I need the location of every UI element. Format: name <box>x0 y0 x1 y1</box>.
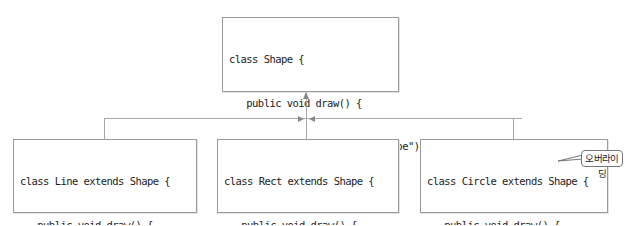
line-class-box: class Line extends Shape { public void d… <box>13 139 197 213</box>
connector-line-drop <box>104 118 105 139</box>
code-line: class Rect extends Shape { <box>224 174 414 189</box>
arrow-right-icon <box>298 116 304 122</box>
code-line: public void draw() { <box>20 218 210 226</box>
arrow-left-icon <box>309 116 315 122</box>
code-line: class Shape { <box>229 52 425 67</box>
callout-pointer-icon <box>556 153 584 165</box>
overriding-callout: 오버라이딩 <box>581 150 623 167</box>
shape-class-box: class Shape { public void draw() { Syste… <box>222 17 399 92</box>
rect-class-code: class Rect extends Shape { public void d… <box>224 145 414 225</box>
code-line: class Line extends Shape { <box>20 174 210 189</box>
line-class-code: class Line extends Shape { public void d… <box>20 145 210 225</box>
connector-vertical-main <box>306 93 307 139</box>
rect-class-box: class Rect extends Shape { public void d… <box>217 139 399 213</box>
code-line: public void draw() { <box>427 218 627 226</box>
connector-circle-drop <box>513 118 514 139</box>
inheritance-arrow-icon <box>303 92 309 99</box>
circle-class-box: class Circle extends Shape { public void… <box>420 139 608 213</box>
code-line: public void draw() { <box>229 96 425 111</box>
code-line: public void draw() { <box>224 218 414 226</box>
